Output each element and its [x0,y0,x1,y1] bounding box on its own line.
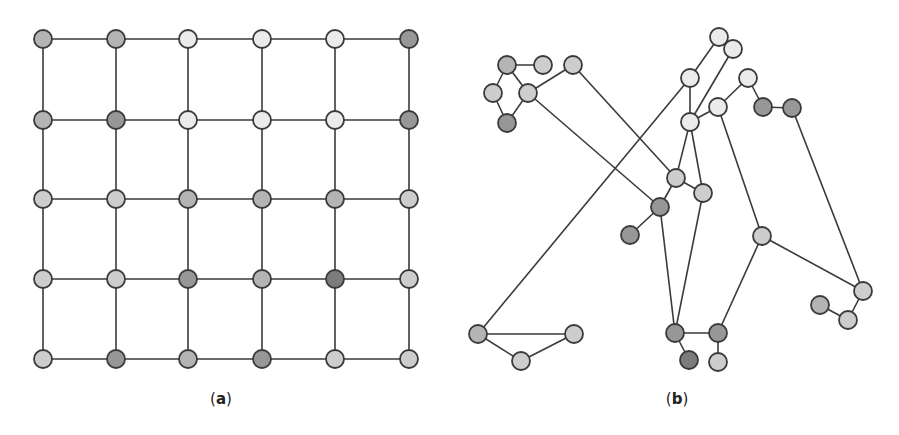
grid-node [253,270,271,288]
grid-node [34,270,52,288]
graph-edge [573,65,676,178]
panel-a-caption: (a) [210,390,232,408]
grid-node [34,190,52,208]
grid-node [400,350,418,368]
graph-node [564,56,582,74]
grid-node [253,350,271,368]
grid-node [34,350,52,368]
caption-a-letter: a [216,390,226,408]
graph-edge [718,107,762,236]
panel-b-caption: (b) [666,390,688,408]
graph-node [512,352,530,370]
grid-node [107,350,125,368]
grid-node [326,111,344,129]
graph-node [694,184,712,202]
graph-node [854,282,872,300]
grid-node [179,190,197,208]
graph-node [666,324,684,342]
grid-node [253,190,271,208]
grid-node [107,190,125,208]
graph-edge [675,193,703,333]
graph-node [498,114,516,132]
grid-node [107,270,125,288]
graph-node [783,99,801,117]
graph-edge [762,236,863,291]
grid-node [179,30,197,48]
grid-node [179,111,197,129]
panel-a-edges [43,39,409,359]
grid-node [107,30,125,48]
grid-node [34,30,52,48]
grid-node [253,30,271,48]
graph-node [754,98,772,116]
panel-b-edges [478,37,863,362]
grid-node [34,111,52,129]
panel-a-grid-graph [34,30,418,368]
graph-edge [792,108,863,291]
figure-canvas [0,0,899,435]
grid-node [400,190,418,208]
graph-node [469,325,487,343]
grid-node [179,350,197,368]
graph-node [681,69,699,87]
graph-node [498,56,516,74]
graph-edge [660,207,675,333]
panel-b-scattered-graph [469,28,872,371]
caption-b-close: ) [682,390,688,408]
grid-node [253,111,271,129]
grid-node [179,270,197,288]
grid-node [326,350,344,368]
graph-node [667,169,685,187]
grid-node [400,30,418,48]
graph-node [565,325,583,343]
graph-edge [528,93,660,207]
graph-node [709,98,727,116]
graph-node [709,353,727,371]
graph-node [484,84,502,102]
grid-node [400,270,418,288]
graph-node [519,84,537,102]
graph-node [534,56,552,74]
grid-node [400,111,418,129]
graph-node [811,296,829,314]
grid-node [107,111,125,129]
graph-node [680,351,698,369]
graph-node [753,227,771,245]
graph-node [739,69,757,87]
graph-node [621,226,639,244]
grid-node [326,30,344,48]
graph-node [651,198,669,216]
graph-node [709,324,727,342]
graph-edge [690,122,703,193]
graph-edge [718,236,762,333]
grid-node [326,190,344,208]
graph-node [681,113,699,131]
caption-a-close: ) [226,390,232,408]
graph-node [839,311,857,329]
grid-node [326,270,344,288]
caption-b-letter: b [672,390,683,408]
graph-node [724,40,742,58]
panel-b-nodes [469,28,872,371]
